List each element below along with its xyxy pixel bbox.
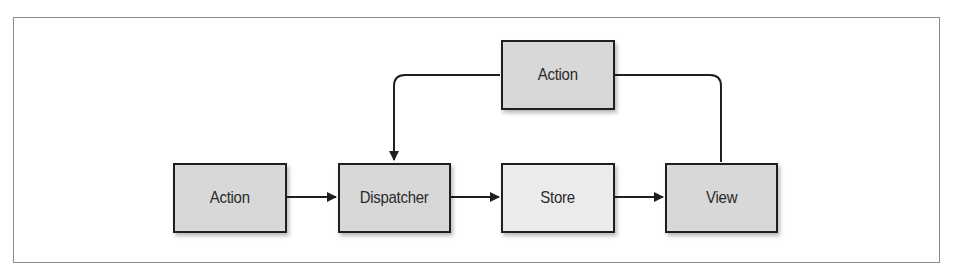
node-label: Store [541, 188, 575, 208]
node-label: View [706, 188, 737, 208]
node-label: Action [210, 188, 250, 208]
node-action-top: Action [501, 40, 615, 110]
node-dispatcher: Dispatcher [338, 163, 451, 233]
node-action-bottom: Action [173, 163, 287, 233]
node-store: Store [501, 163, 615, 233]
node-view: View [665, 163, 778, 233]
diagram-frame [13, 17, 940, 263]
node-label: Action [538, 65, 578, 85]
node-label: Dispatcher [360, 188, 429, 208]
